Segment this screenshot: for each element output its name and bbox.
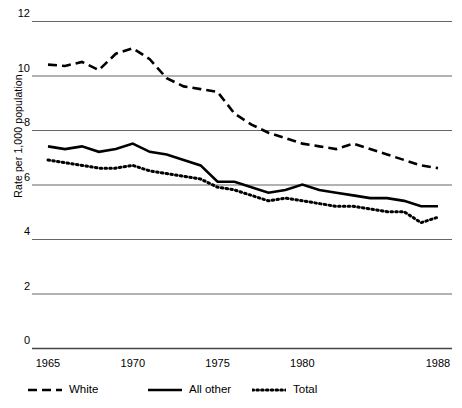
legend-label: Total	[293, 383, 317, 395]
chart-legend: WhiteAll otherTotal	[0, 378, 462, 402]
legend-item-total[interactable]: Total	[252, 380, 317, 396]
series-line-all-other	[48, 144, 438, 207]
legend-item-white[interactable]: White	[28, 380, 98, 396]
legend-item-all-other[interactable]: All other	[148, 380, 231, 396]
legend-label: All other	[189, 383, 231, 395]
chart-container: Rate per 1,000 population 121086420 1965…	[0, 0, 462, 408]
legend-swatch-solid-icon	[148, 383, 182, 394]
series-line-total	[48, 160, 438, 223]
legend-label: White	[69, 383, 98, 395]
legend-swatch-dashed-icon	[28, 383, 62, 394]
plot-area	[0, 0, 462, 408]
legend-swatch-dotted-icon	[252, 383, 286, 394]
